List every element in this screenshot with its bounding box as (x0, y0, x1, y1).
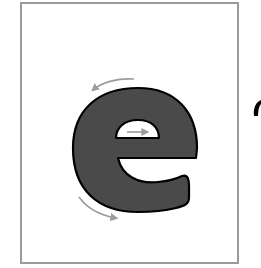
letter-e-diagram (0, 0, 261, 268)
letter-e-shape (73, 88, 197, 212)
adjacent-glyph-fragment (254, 100, 261, 116)
